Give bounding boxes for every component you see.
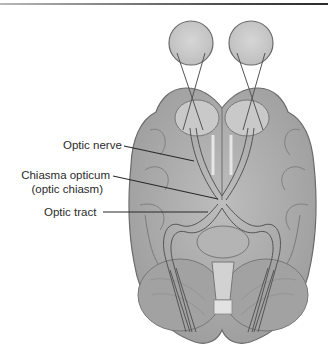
brain [129,88,316,343]
label-optic-tract: Optic tract [44,206,96,219]
right-eye [229,21,273,65]
label-optic-nerve: Optic nerve [63,139,122,152]
label-chiasma-opticum: Chiasma opticum [3,169,110,182]
eyes [169,21,273,65]
left-eye [169,21,213,65]
label-optic-chiasm: (optic chiasm) [3,183,103,196]
